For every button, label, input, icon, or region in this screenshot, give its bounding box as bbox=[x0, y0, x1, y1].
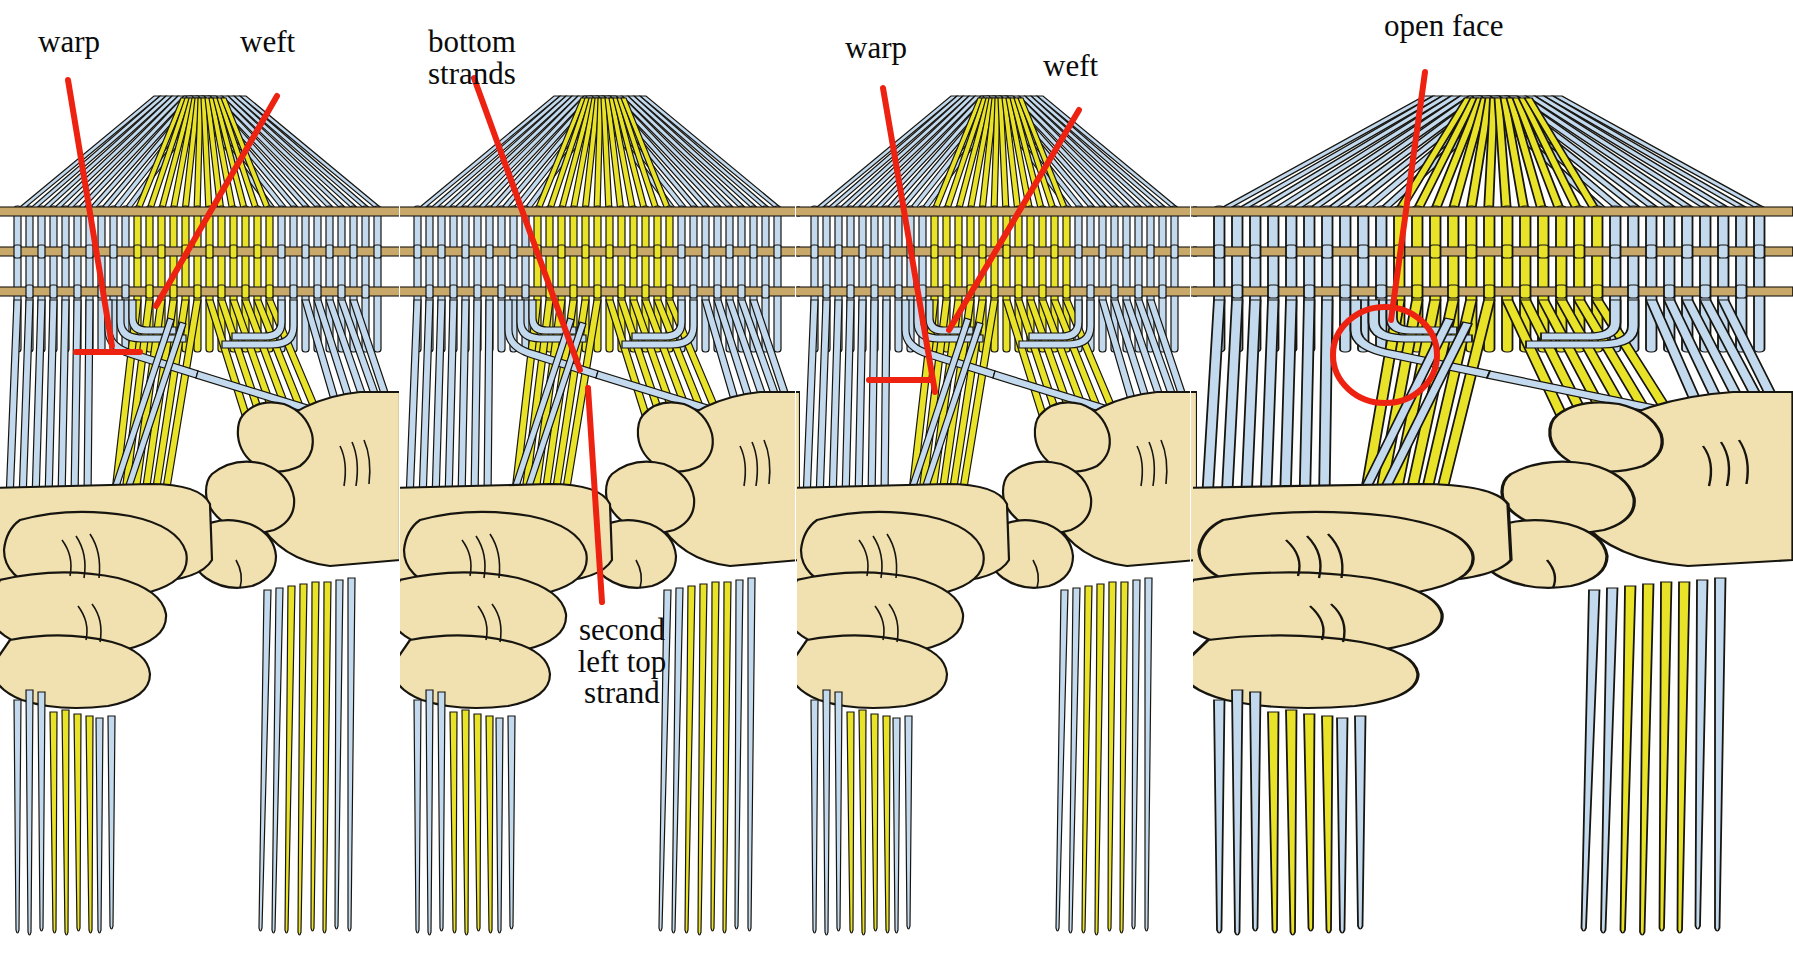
panel-2-illustration bbox=[400, 0, 800, 956]
label-open-face: open face bbox=[1384, 10, 1504, 42]
label-weft-panel3: weft bbox=[1043, 50, 1098, 82]
braid-illustration bbox=[0, 96, 400, 935]
panel-divider-2 bbox=[795, 0, 796, 956]
panel-1-illustration bbox=[0, 0, 400, 956]
label-second-left-top-strand: second left top strand bbox=[552, 614, 692, 709]
label-warp-panel1: warp bbox=[38, 26, 100, 58]
label-warp-panel3: warp bbox=[845, 32, 907, 64]
figure-canvas: warp weft bottom strands second left top… bbox=[0, 0, 1793, 956]
panel-4 bbox=[1193, 0, 1793, 956]
panel-1 bbox=[0, 0, 400, 956]
panel-divider-3 bbox=[1190, 0, 1191, 956]
panel-3 bbox=[797, 0, 1197, 956]
label-weft-panel1: weft bbox=[240, 26, 295, 58]
braid-illustration bbox=[400, 96, 800, 935]
panel-4-illustration bbox=[1193, 0, 1793, 956]
label-bottom-strands: bottom strands bbox=[428, 26, 516, 89]
panel-3-illustration bbox=[797, 0, 1197, 956]
panel-divider-1 bbox=[399, 0, 400, 956]
braid-illustration bbox=[797, 96, 1197, 935]
braid-illustration bbox=[1193, 96, 1793, 935]
panel-2 bbox=[400, 0, 800, 956]
